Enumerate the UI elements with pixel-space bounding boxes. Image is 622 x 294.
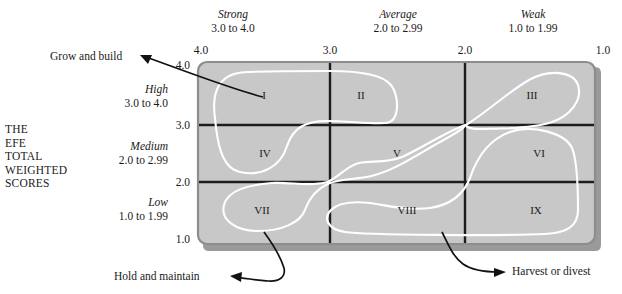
arrow-grow-and-build-head (140, 55, 152, 64)
matrix-cell-viii[interactable]: VIII (387, 204, 427, 216)
matrix-cell-ix[interactable]: IX (516, 204, 556, 216)
matrix-cell-iv[interactable]: IV (245, 147, 285, 159)
matrix-cell-iii[interactable]: III (512, 89, 552, 101)
matrix-cell-i[interactable]: I (244, 89, 284, 101)
callout-harvest-or-divest: Harvest or divest (512, 265, 591, 278)
arrow-hold-and-maintain-head (230, 272, 242, 282)
callout-grow-and-build: Grow and build (50, 50, 122, 63)
callout-hold-and-maintain: Hold and maintain (114, 270, 200, 283)
matrix-cell-ii[interactable]: II (341, 89, 381, 101)
matrix-cell-v[interactable]: V (377, 147, 417, 159)
matrix-cell-vii[interactable]: VII (242, 204, 282, 216)
arrow-harvest-or-divest-head (494, 268, 506, 277)
ie-matrix-figure: Strong 3.0 to 4.0 Average 2.0 to 2.99 We… (0, 0, 622, 294)
matrix-cell-vi[interactable]: VI (519, 147, 559, 159)
